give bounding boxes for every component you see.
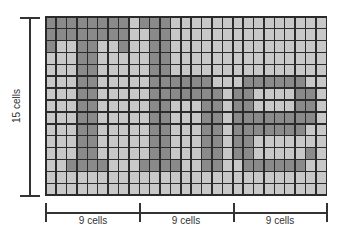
grid-cell (98, 184, 107, 194)
grid-cell (78, 172, 87, 182)
grid-cell (223, 65, 232, 75)
grid-cell (285, 148, 294, 158)
grid-cell (285, 18, 294, 28)
grid-cell (109, 41, 118, 51)
grid-cell (285, 172, 294, 182)
grid-cell (171, 125, 180, 135)
grid-cell (202, 18, 211, 28)
grid-cell (171, 136, 180, 146)
grid-cell (161, 113, 170, 123)
grid-cell (317, 101, 326, 111)
grid-cell (213, 101, 222, 111)
grid-cell (161, 41, 170, 51)
grid-cell (119, 53, 128, 63)
grid-cell (109, 160, 118, 170)
grid-cell (296, 184, 305, 194)
grid-cell (202, 148, 211, 158)
grid-cell (202, 41, 211, 51)
grid-cell (244, 184, 253, 194)
grid-cell (130, 18, 139, 28)
grid-cell (234, 136, 243, 146)
grid-cell (130, 89, 139, 99)
grid-cell (254, 125, 263, 135)
grid-cell (265, 77, 274, 87)
grid-cell (57, 89, 66, 99)
grid-cell (265, 53, 274, 63)
grid-cell (67, 136, 76, 146)
grid-cell (213, 113, 222, 123)
grid-cell (150, 89, 159, 99)
grid-cell (150, 113, 159, 123)
grid-cell (109, 136, 118, 146)
grid-cell (192, 18, 201, 28)
grid-cell (182, 113, 191, 123)
grid-cell (57, 125, 66, 135)
grid-cell (213, 65, 222, 75)
grid-cell (119, 136, 128, 146)
grid-cell (275, 113, 284, 123)
grid-cell (47, 41, 56, 51)
grid-cell (317, 136, 326, 146)
grid-cell (140, 18, 149, 28)
grid-cell (244, 77, 253, 87)
grid-cell (317, 89, 326, 99)
grid-cell (265, 125, 274, 135)
grid-cell (182, 101, 191, 111)
grid-cell (296, 89, 305, 99)
grid-cell (130, 29, 139, 39)
horizontal-segment-label-2: 9 cells (172, 215, 200, 226)
grid-cell (161, 18, 170, 28)
grid-cell (244, 41, 253, 51)
grid-cell (130, 160, 139, 170)
grid-cell (171, 29, 180, 39)
grid-cell (140, 89, 149, 99)
grid-cell (202, 136, 211, 146)
grid-cell (234, 53, 243, 63)
grid-cell (119, 65, 128, 75)
grid-cell (150, 53, 159, 63)
grid-cell (150, 29, 159, 39)
grid-cell (109, 18, 118, 28)
grid-cell (47, 29, 56, 39)
horizontal-dimension-tick (233, 203, 235, 222)
grid-cell (296, 101, 305, 111)
grid-cell (182, 53, 191, 63)
grid-cell (244, 101, 253, 111)
grid-cell (109, 65, 118, 75)
grid-cell (171, 160, 180, 170)
grid-cell (140, 77, 149, 87)
grid-cell (285, 101, 294, 111)
grid-cell (47, 89, 56, 99)
grid-cell (171, 89, 180, 99)
grid-cell (161, 77, 170, 87)
grid-cell (161, 136, 170, 146)
grid-cell (109, 148, 118, 158)
grid-cell (119, 148, 128, 158)
grid-cell (285, 125, 294, 135)
grid-cell (109, 172, 118, 182)
grid-cell (213, 136, 222, 146)
grid-cell (275, 89, 284, 99)
grid-cell (317, 125, 326, 135)
grid-cell (130, 101, 139, 111)
grid-cell (98, 18, 107, 28)
grid-cell (57, 172, 66, 182)
grid-cell (296, 113, 305, 123)
grid-cell (306, 184, 315, 194)
grid-cell (47, 172, 56, 182)
grid-cell (130, 113, 139, 123)
grid-cell (182, 136, 191, 146)
grid-cell (192, 77, 201, 87)
grid-cell (161, 160, 170, 170)
grid-cell (161, 172, 170, 182)
grid-cell (306, 65, 315, 75)
grid-cell (192, 136, 201, 146)
grid-cell (161, 65, 170, 75)
grid-cell (98, 41, 107, 51)
horizontal-dimension-tick (139, 203, 141, 222)
grid-cell (296, 136, 305, 146)
grid-cell (78, 77, 87, 87)
grid-cell (171, 101, 180, 111)
grid-cell (57, 77, 66, 87)
grid-cell (213, 160, 222, 170)
